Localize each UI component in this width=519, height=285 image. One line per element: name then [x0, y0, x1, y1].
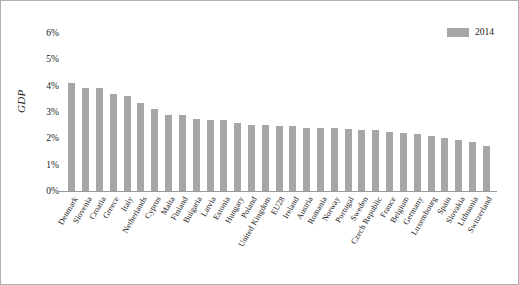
category-slot: Latvia: [203, 193, 217, 283]
category-slot: France: [383, 193, 397, 283]
bar[interactable]: [68, 83, 75, 191]
bar-slot: [438, 33, 452, 191]
category-slot: Germany: [410, 193, 424, 283]
bar-slot: [148, 33, 162, 191]
bar-slot: [231, 33, 245, 191]
bar-slot: [217, 33, 231, 191]
y-axis-tick-label: 4%: [31, 81, 59, 91]
category-slot: Luxembourg: [424, 193, 438, 283]
category-slot: EU28: [272, 193, 286, 283]
bar-slot: [245, 33, 259, 191]
bar-slot: [397, 33, 411, 191]
bar[interactable]: [483, 146, 490, 191]
y-axis-tick-label: 2%: [31, 133, 59, 143]
bar[interactable]: [428, 136, 435, 191]
bar-slot: [452, 33, 466, 191]
bar[interactable]: [276, 126, 283, 191]
bar-slot: [369, 33, 383, 191]
y-axis-tick-label: 5%: [31, 54, 59, 64]
bar[interactable]: [400, 133, 407, 191]
category-slot: Slovenia: [79, 193, 93, 283]
bar[interactable]: [386, 132, 393, 191]
bar[interactable]: [303, 128, 310, 191]
bar[interactable]: [193, 119, 200, 191]
category-slot: Bulgaria: [189, 193, 203, 283]
bar-slot: [479, 33, 493, 191]
bar-slot: [300, 33, 314, 191]
bar[interactable]: [137, 103, 144, 191]
category-slot: Malta: [162, 193, 176, 283]
category-slot: Croatia: [93, 193, 107, 283]
bar-slot: [286, 33, 300, 191]
bar-slot: [355, 33, 369, 191]
bar-slot: [410, 33, 424, 191]
category-slot: Finland: [176, 193, 190, 283]
category-slot: Norway: [327, 193, 341, 283]
bar[interactable]: [234, 123, 241, 191]
y-axis-title: GDP: [15, 89, 27, 113]
bar[interactable]: [220, 120, 227, 191]
bar-slot: [65, 33, 79, 191]
bar-slot: [466, 33, 480, 191]
bar[interactable]: [455, 140, 462, 191]
bar[interactable]: [317, 128, 324, 191]
bar-slot: [272, 33, 286, 191]
category-slot: Slovakia: [452, 193, 466, 283]
category-slot: United Kingdom: [258, 193, 272, 283]
category-slot: Switzerland: [479, 193, 493, 283]
x-axis-category-labels: DenmarkSloveniaCroatiaGreeceItalyNetherl…: [63, 193, 495, 283]
category-slot: Netherlands: [134, 193, 148, 283]
plot-area: [63, 33, 495, 191]
bar-slot: [314, 33, 328, 191]
bar-slot: [341, 33, 355, 191]
bar[interactable]: [469, 142, 476, 191]
category-slot: Romania: [314, 193, 328, 283]
bar[interactable]: [262, 125, 269, 191]
bar[interactable]: [124, 96, 131, 191]
bar-slot: [383, 33, 397, 191]
category-slot: Italy: [120, 193, 134, 283]
category-slot: Spain: [438, 193, 452, 283]
bar[interactable]: [331, 128, 338, 191]
bar[interactable]: [165, 115, 172, 191]
bar[interactable]: [110, 94, 117, 191]
x-axis-line: [59, 191, 497, 192]
y-axis-tick-label: 1%: [31, 160, 59, 170]
bar[interactable]: [345, 129, 352, 191]
bar[interactable]: [179, 115, 186, 191]
bar[interactable]: [372, 130, 379, 191]
bar[interactable]: [96, 88, 103, 191]
category-slot: Austria: [300, 193, 314, 283]
category-slot: Greece: [106, 193, 120, 283]
bar-slot: [134, 33, 148, 191]
category-slot: Denmark: [65, 193, 79, 283]
y-axis-tick-label: 6%: [31, 28, 59, 38]
bar[interactable]: [248, 125, 255, 191]
bar[interactable]: [414, 134, 421, 191]
bar-slot: [424, 33, 438, 191]
bar-slot: [162, 33, 176, 191]
category-slot: Lithuania: [466, 193, 480, 283]
category-slot: Cyprus: [148, 193, 162, 283]
bar[interactable]: [207, 120, 214, 191]
bar-slot: [120, 33, 134, 191]
y-axis-tick-label: 0%: [31, 186, 59, 196]
bar[interactable]: [289, 126, 296, 191]
category-slot: Ireland: [286, 193, 300, 283]
bar-slot: [79, 33, 93, 191]
chart-figure: 2014 GDP 6%5%4%3%2%1%0% DenmarkSloveniaC…: [0, 0, 519, 285]
category-slot: Estonia: [217, 193, 231, 283]
bar-slot: [176, 33, 190, 191]
bar-slot: [258, 33, 272, 191]
bar-slot: [203, 33, 217, 191]
bar[interactable]: [151, 109, 158, 191]
bar-slot: [189, 33, 203, 191]
bar[interactable]: [82, 88, 89, 191]
y-axis-ticks: 6%5%4%3%2%1%0%: [31, 33, 59, 191]
y-axis-tick-label: 3%: [31, 107, 59, 117]
bar-slot: [327, 33, 341, 191]
bar[interactable]: [441, 138, 448, 191]
category-slot: Belgium: [397, 193, 411, 283]
bar[interactable]: [358, 130, 365, 191]
bar-series-2014: [63, 33, 495, 191]
